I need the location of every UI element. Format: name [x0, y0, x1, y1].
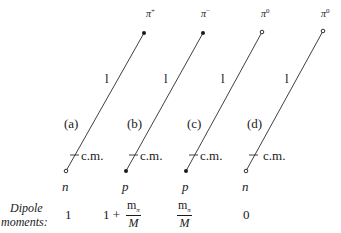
length-label-d: l — [285, 72, 289, 85]
nucleon-dot-c — [184, 169, 188, 173]
line-a — [66, 33, 144, 171]
dipole-value-a: 1 — [65, 208, 72, 221]
nucleon-label-a: n — [62, 180, 69, 193]
diagram-label-a: (a) — [64, 117, 78, 130]
length-label-c: l — [221, 72, 225, 85]
line-b — [126, 33, 203, 171]
pion-dot-d — [321, 29, 325, 33]
nucleon-dot-d — [244, 169, 248, 173]
pion-dot-c — [260, 30, 264, 34]
diagram-lines — [0, 0, 341, 233]
length-label-a: l — [105, 72, 109, 85]
cm-label-b: c.m. — [140, 149, 162, 162]
cm-label-c: c.m. — [200, 149, 222, 162]
pion-label-b: π− — [201, 8, 210, 19]
diagram-label-c: (c) — [187, 117, 201, 130]
nucleon-dot-b — [124, 169, 128, 173]
length-label-b: l — [164, 72, 168, 85]
nucleon-label-b: p — [122, 180, 129, 193]
dipole-heading-line2: moments: — [1, 216, 48, 228]
dipole-fraction-c: mπ M — [177, 199, 192, 229]
nucleon-label-c: p — [182, 180, 189, 193]
line-c — [186, 32, 262, 171]
dipole-prefix-b: 1 + — [103, 208, 120, 221]
diagram-label-d: (d) — [247, 117, 262, 130]
pion-label-a: π+ — [146, 8, 155, 19]
dipole-value-d: 0 — [243, 208, 250, 221]
nucleon-label-d: n — [242, 180, 249, 193]
pion-dot-a — [142, 31, 146, 35]
dipole-heading-line1: Dipole — [10, 202, 43, 214]
diagram-label-b: (b) — [127, 117, 142, 130]
nucleon-dot-a — [64, 169, 68, 173]
pion-label-d: π0 — [321, 8, 330, 19]
pion-dot-b — [201, 31, 205, 35]
pion-label-c: π0 — [261, 8, 270, 19]
dipole-fraction-b: mπ M — [126, 199, 141, 229]
cm-label-d: c.m. — [263, 149, 285, 162]
cm-label-a: c.m. — [81, 149, 103, 162]
